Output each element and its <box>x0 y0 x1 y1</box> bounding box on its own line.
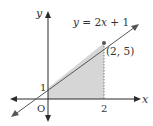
x-tick-label: 2 <box>101 103 107 114</box>
y-axis-arrow-down-icon <box>45 115 51 122</box>
x-axis-arrow-left-icon <box>10 96 17 102</box>
y-axis-label: y <box>35 7 43 20</box>
y-intercept-label: 1 <box>40 82 46 93</box>
graph: y y = 2x + 1 (2, 5) 1 O 2 x <box>0 0 153 126</box>
line-arrow-upper-icon <box>131 24 139 31</box>
point-label: (2, 5) <box>106 45 134 57</box>
shaded-region <box>48 43 104 99</box>
x-axis-label: x <box>142 93 149 106</box>
x-axis-arrow-right-icon <box>134 96 141 102</box>
origin-label: O <box>37 103 45 114</box>
line-y-2x-plus-1 <box>14 27 135 115</box>
line-arrow-lower-icon <box>11 110 19 117</box>
equation-label: y = 2x + 1 <box>72 16 129 28</box>
y-axis-arrow-up-icon <box>45 11 51 18</box>
